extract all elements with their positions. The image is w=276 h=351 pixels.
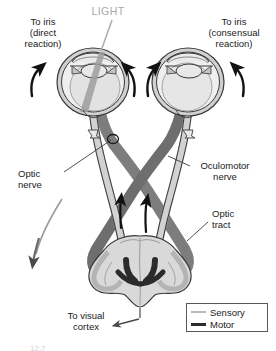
sensory-arrow-left-descending xyxy=(33,238,39,263)
tract-arrow-right xyxy=(145,200,147,232)
eye-right xyxy=(152,48,224,118)
oculomotor-nerve-label: Oculomotor nerve xyxy=(193,160,257,182)
eye-right-lens xyxy=(176,64,202,78)
sensory-descending-curve xyxy=(33,199,62,263)
tract-arrow-left xyxy=(120,199,121,228)
legend-label-sensory: Sensory xyxy=(210,307,245,318)
legend-item-motor: Motor xyxy=(191,318,234,330)
figure-canvas: LIGHT To iris (direct reaction) To iris … xyxy=(0,0,276,351)
iris-arrow-left-outer xyxy=(31,67,41,96)
iris-arrow-right-outer xyxy=(235,67,244,96)
light-ray xyxy=(101,20,112,51)
eye-left xyxy=(57,48,129,118)
legend: Sensory Motor xyxy=(186,303,268,332)
motor-line-icon xyxy=(191,323,206,326)
sensory-line-icon xyxy=(191,311,206,313)
optic-nerve-label: Optic nerve xyxy=(18,168,62,190)
legend-label-motor: Motor xyxy=(210,319,234,330)
light-label: LIGHT xyxy=(86,6,130,17)
to-iris-direct-label: To iris (direct reaction) xyxy=(8,16,78,49)
to-iris-consensual-label: To iris (consensual reaction) xyxy=(196,16,272,49)
leader-optic-tract xyxy=(187,222,208,241)
optic-tract-label: Optic tract xyxy=(212,208,252,230)
leader-to-visual-cortex xyxy=(116,319,139,325)
to-visual-cortex-label: To visual cortex xyxy=(54,310,118,332)
legend-item-sensory: Sensory xyxy=(191,306,245,318)
figure-caption: 12.7 xyxy=(30,344,270,351)
